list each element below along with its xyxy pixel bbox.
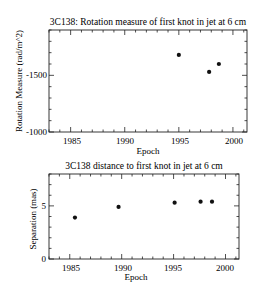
data-point [207, 70, 211, 74]
bottom-ytick-label: 5 [42, 201, 47, 211]
top-plot-ticks [49, 30, 247, 132]
data-point [198, 200, 202, 204]
bottom-xtick-label: 1995 [164, 263, 183, 273]
bottom-xtick-label: 2000 [216, 263, 235, 273]
bottom-plot: 3C138 distance to first knot in jet at 6… [28, 161, 239, 282]
data-point [210, 200, 214, 204]
bottom-xlabel: Epoch [125, 272, 148, 282]
top-ytick-label: -1000 [26, 127, 47, 137]
top-ytick-label: -1500 [26, 70, 47, 80]
top-xtick-label: 1995 [171, 136, 190, 146]
data-point [177, 53, 181, 57]
data-point [116, 205, 120, 209]
bottom-plot-points [73, 200, 214, 220]
bottom-plot-title: 3C138 distance to first knot in jet at 6… [65, 161, 223, 171]
data-point [217, 62, 221, 66]
data-point [73, 215, 77, 219]
top-plot-frame [49, 30, 247, 132]
top-plot: 3C138: Rotation measure of first knot in… [14, 17, 247, 156]
top-plot-points [177, 53, 221, 74]
data-point [173, 201, 177, 205]
top-xtick-label: 1990 [116, 136, 135, 146]
bottom-plot-ticks [49, 174, 239, 259]
bottom-xtick-label: 1985 [62, 263, 81, 273]
top-ylabel: Rotation Measure (rad/m^2) [14, 30, 24, 132]
bottom-ytick-label: 0 [42, 254, 47, 264]
top-xlabel: Epoch [137, 146, 160, 156]
top-plot-title: 3C138: Rotation measure of first knot in… [50, 17, 247, 27]
figure: 3C138: Rotation measure of first knot in… [0, 0, 257, 297]
top-xtick-label: 2000 [225, 136, 244, 146]
bottom-plot-frame [49, 174, 239, 259]
top-xtick-label: 1985 [63, 136, 82, 146]
bottom-ylabel: Separation (mas) [28, 188, 38, 249]
